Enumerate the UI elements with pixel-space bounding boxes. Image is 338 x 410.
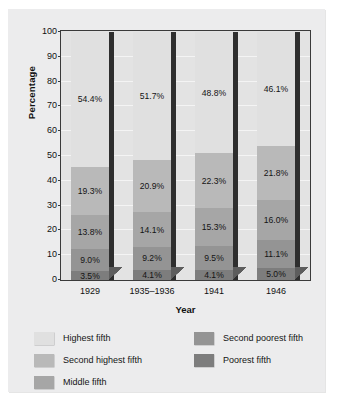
legend-item[interactable]: Poorest fifth [194,349,303,371]
bar-base-shadow [109,267,123,280]
y-tick-label: 60 [47,125,57,135]
legend-swatch [194,332,214,345]
bar-segment[interactable]: 9.5% [195,246,233,270]
bar-segment-value-label: 4.1% [195,270,233,280]
legend-item[interactable]: Second highest fifth [34,349,142,371]
bar-segment-value-label: 22.3% [195,176,233,186]
bar-segment-value-label: 15.3% [195,222,233,232]
bar-segment[interactable]: 19.3% [71,167,109,215]
legend-item[interactable]: Second poorest fifth [194,327,303,349]
y-tick-mark [58,56,61,57]
y-tick-mark [58,279,61,280]
bar-side-face [109,32,114,280]
bar-segment[interactable]: 3.5% [71,271,109,280]
y-tick-mark [58,31,61,32]
y-tick-label: 40 [47,175,57,185]
legend-label: Middle fifth [63,377,107,387]
bar-segment-value-label: 46.1% [257,84,295,94]
bar-segment[interactable]: 48.8% [195,32,233,153]
bar-segment[interactable]: 11.1% [257,240,295,268]
legend-swatch [194,354,214,367]
bar-segment[interactable]: 4.1% [133,270,171,280]
y-tick-mark [58,105,61,106]
bar-segment-value-label: 11.1% [257,249,295,259]
y-tick-label: 80 [47,76,57,86]
bar-segment-value-label: 14.1% [133,225,171,235]
x-tick-label: 1946 [266,286,286,296]
legend-swatch [34,354,54,367]
bar-segment-value-label: 9.5% [195,253,233,263]
bar-segment[interactable]: 22.3% [195,153,233,208]
bar-segment-value-label: 13.8% [71,227,109,237]
bar-base-shadow [171,267,185,280]
x-tick-label: 1935–1936 [129,286,174,296]
y-tick-label: 10 [47,249,57,259]
y-tick-label: 30 [47,200,57,210]
y-tick-label: 100 [42,26,57,36]
bar-side-face [233,32,238,280]
bar-base-shadow [295,267,309,280]
x-tick-label: 1941 [204,286,224,296]
bar-segment[interactable]: 15.3% [195,208,233,246]
bar-segment-value-label: 54.4% [71,94,109,104]
y-axis-title: Percentage [26,38,37,148]
bar-stack[interactable]: 48.8%22.3%15.3%9.5%4.1% [195,32,233,280]
y-tick-label: 20 [47,224,57,234]
y-tick-mark [58,155,61,156]
bar-segment[interactable]: 21.8% [257,146,295,200]
legend-label: Poorest fifth [223,355,271,365]
bar-segment[interactable]: 54.4% [71,32,109,167]
y-tick-mark [58,81,61,82]
bar-segment[interactable]: 46.1% [257,32,295,146]
bar-segment[interactable]: 9.0% [71,249,109,271]
legend-label: Highest fifth [63,333,111,343]
bar-segment[interactable]: 9.2% [133,247,171,270]
y-tick-mark [58,130,61,131]
bar-segment[interactable]: 51.7% [133,32,171,160]
legend-column-left: Highest fifthSecond highest fifthMiddle … [34,327,142,393]
figure-panel: Percentage 0102030405060708090100 54.4%1… [8,9,325,392]
bar-segment[interactable]: 20.9% [133,160,171,212]
bar-segment-value-label: 4.1% [133,270,171,280]
y-tick-label: 0 [52,274,57,284]
bar-base-shadow [233,267,247,280]
bar-segment-value-label: 48.8% [195,88,233,98]
bar-segment-value-label: 3.5% [71,271,109,281]
y-tick-mark [58,180,61,181]
bar-segment-value-label: 21.8% [257,168,295,178]
bar-segment-value-label: 5.0% [257,269,295,279]
bar-segment[interactable]: 16.0% [257,200,295,240]
bar-segment-value-label: 16.0% [257,215,295,225]
legend-item[interactable]: Highest fifth [34,327,142,349]
bar-segment[interactable]: 14.1% [133,212,171,247]
y-tick-label: 70 [47,100,57,110]
legend-label: Second highest fifth [63,355,142,365]
bar-segment[interactable]: 4.1% [195,270,233,280]
y-tick-mark [58,254,61,255]
bar-segment[interactable]: 13.8% [71,215,109,249]
plot-area: 0102030405060708090100 54.4%19.3%13.8%9.… [60,30,311,281]
legend-label: Second poorest fifth [223,333,303,343]
bar-segment-value-label: 9.0% [71,255,109,265]
bar-segment-value-label: 20.9% [133,181,171,191]
bar-segment[interactable]: 5.0% [257,268,295,280]
y-tick-label: 90 [47,51,57,61]
bar-stack[interactable]: 46.1%21.8%16.0%11.1%5.0% [257,32,295,280]
bar-stack[interactable]: 54.4%19.3%13.8%9.0%3.5% [71,32,109,280]
legend-swatch [34,332,54,345]
bar-side-face [171,32,176,280]
x-axis-title: Year [60,304,311,315]
y-tick-label: 50 [47,150,57,160]
bar-segment-value-label: 9.2% [133,253,171,263]
bar-segment-value-label: 19.3% [71,186,109,196]
bar-segment-value-label: 51.7% [133,91,171,101]
legend-item[interactable]: Middle fifth [34,371,142,393]
legend-column-right: Second poorest fifthPoorest fifth [194,327,303,371]
bar-stack[interactable]: 51.7%20.9%14.1%9.2%4.1% [133,32,171,280]
y-tick-mark [58,205,61,206]
bar-side-face [295,32,300,280]
legend-swatch [34,376,54,389]
y-tick-mark [58,229,61,230]
x-tick-label: 1929 [80,286,100,296]
